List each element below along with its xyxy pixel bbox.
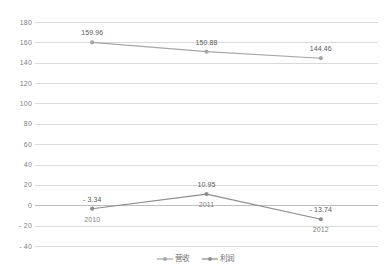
line-chart: 180160140120100806040200- 20- 40 159.961… <box>0 0 390 267</box>
data-point-label: - 3.34 <box>83 196 102 203</box>
data-point-label: 159.96 <box>81 29 103 36</box>
legend-item-1[interactable]: 利润 <box>202 255 234 263</box>
data-point-label: 144.46 <box>310 45 332 52</box>
legend-label-0: 营收 <box>175 255 189 263</box>
legend-item-0[interactable]: 营收 <box>157 255 189 263</box>
label-overlay: 159.96150.88144.46- 3.3410.95- 13.742010… <box>0 0 390 267</box>
data-point-label: 150.88 <box>195 39 217 46</box>
line-marker-icon <box>202 255 218 263</box>
data-point-label: 10.95 <box>197 181 215 188</box>
chart-legend: 营收 利润 <box>0 255 390 263</box>
line-marker-icon <box>157 255 173 263</box>
x-axis-category-label: 2010 <box>84 216 100 223</box>
legend-label-1: 利润 <box>220 255 234 263</box>
x-axis-category-label: 2012 <box>313 226 329 233</box>
x-axis-category-label: 2011 <box>199 201 214 208</box>
data-point-label: - 13.74 <box>310 206 333 213</box>
